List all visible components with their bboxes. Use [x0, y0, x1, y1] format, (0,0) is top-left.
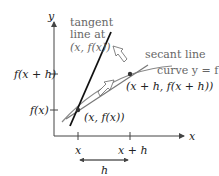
- x-tick-label-x: x: [75, 144, 82, 157]
- x-axis-label: x: [189, 130, 196, 143]
- y-tick-label-fxh: f(x + h): [13, 68, 56, 81]
- y-tick-label-fx: f(x): [29, 104, 49, 117]
- rotation-arrow-tangent-icon: [113, 46, 127, 62]
- derivative-diagram: y x f(x + h) f(x) x x + h h tangent line…: [0, 0, 219, 176]
- rotation-arrow-secant-icon: [98, 80, 114, 96]
- point-xh-label: (x + h, f(x + h)): [126, 80, 213, 93]
- point-x-label: (x, f(x)): [84, 111, 125, 124]
- y-axis-label: y: [47, 10, 55, 23]
- curve-label: curve y = f: [157, 64, 219, 77]
- tangent-label-2: line at: [70, 28, 106, 41]
- point-xh: [128, 72, 132, 76]
- secant-label: secant line: [145, 48, 206, 61]
- x-tick-label-xh: x + h: [118, 144, 148, 157]
- tangent-label-3: (x, f(x)): [70, 41, 111, 54]
- interval-label: h: [101, 164, 108, 176]
- point-x: [76, 108, 80, 112]
